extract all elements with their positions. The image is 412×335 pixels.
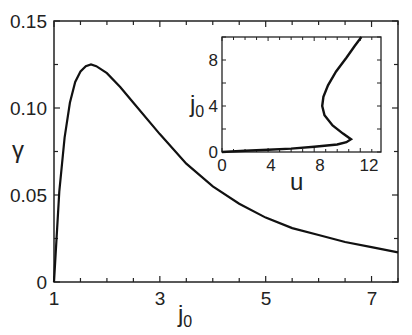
y-tick-label: 0.05 [10,185,47,206]
inset-y-tick-label: 8 [209,51,218,70]
inset-y-tick-label: 4 [209,97,218,116]
chart-figure: 1 3 5 7 0 0.05 0.10 0.15 γ j0 0 4 8 12 0… [0,0,412,335]
y-tick-label: 0 [36,272,47,293]
x-tick-label: 3 [155,288,166,309]
y-tick-label: 0.10 [10,98,47,119]
y-tick-label: 0.15 [10,11,47,32]
inset-plot-frame [222,37,381,152]
inset-x-tick-label: 0 [217,156,226,175]
y-axis-label: γ [12,136,24,163]
x-axis-label: j0 [177,300,192,330]
x-tick-label: 5 [261,288,272,309]
inset-x-tick-label: 12 [360,156,379,175]
inset-y-tick-label: 0 [209,143,218,162]
inset-y-axis-label: j0 [189,90,204,120]
inset-x-axis-label: u [290,168,303,195]
x-tick-label: 7 [367,288,378,309]
inset-x-tick-label: 8 [315,156,324,175]
x-tick-label: 1 [49,288,60,309]
inset-x-tick-label: 4 [266,156,275,175]
